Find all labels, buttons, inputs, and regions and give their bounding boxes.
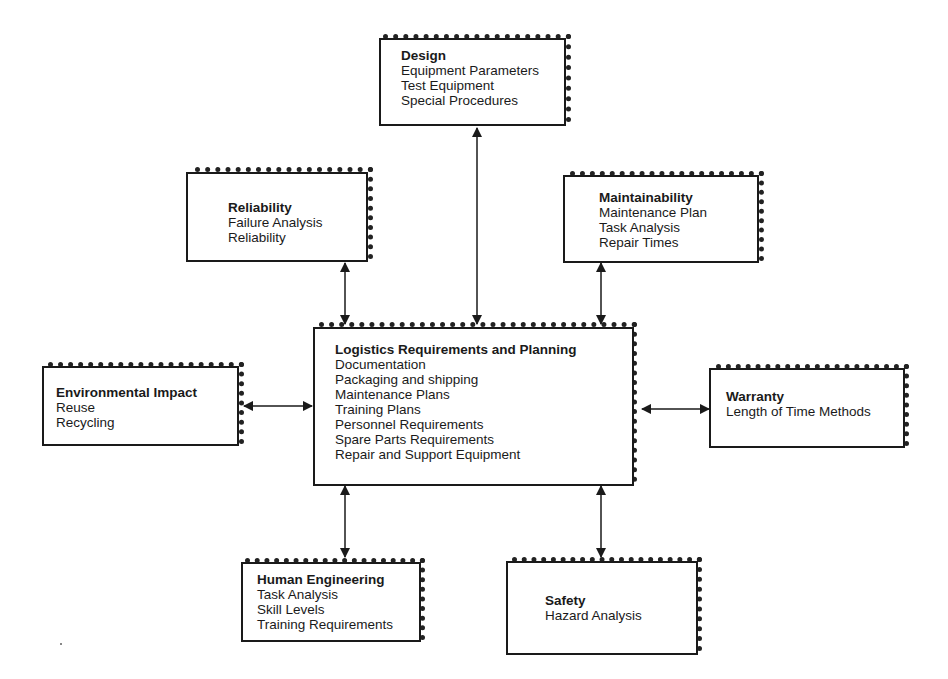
- human-item: Training Requirements: [257, 617, 393, 632]
- reliability-item: Reliability: [228, 230, 323, 245]
- environmental-item: Reuse: [56, 400, 197, 415]
- logistics-item: Documentation: [335, 357, 577, 372]
- reliability-title: Reliability: [228, 200, 323, 215]
- logistics-box: Logistics Requirements and Planning Docu…: [313, 327, 634, 486]
- environmental-title: Environmental Impact: [56, 385, 197, 400]
- logistics-item: Repair and Support Equipment: [335, 447, 577, 462]
- maintainability-title: Maintainability: [599, 190, 707, 205]
- stray-dot: [60, 643, 62, 645]
- design-item: Equipment Parameters: [401, 63, 539, 78]
- safety-box: Safety Hazard Analysis: [506, 561, 698, 655]
- human-box: Human Engineering Task Analysis Skill Le…: [241, 562, 421, 642]
- warranty-box: Warranty Length of Time Methods: [709, 368, 905, 448]
- logistics-title: Logistics Requirements and Planning: [335, 342, 577, 357]
- environmental-item: Recycling: [56, 415, 197, 430]
- logistics-item: Packaging and shipping: [335, 372, 577, 387]
- design-title: Design: [401, 48, 539, 63]
- safety-item: Hazard Analysis: [545, 608, 642, 623]
- logistics-item: Training Plans: [335, 402, 577, 417]
- reliability-item: Failure Analysis: [228, 215, 323, 230]
- design-item: Test Equipment: [401, 78, 539, 93]
- environmental-box: Environmental Impact Reuse Recycling: [42, 366, 239, 446]
- logistics-item: Spare Parts Requirements: [335, 432, 577, 447]
- human-item: Skill Levels: [257, 602, 393, 617]
- warranty-item: Length of Time Methods: [726, 404, 871, 419]
- maintainability-item: Task Analysis: [599, 220, 707, 235]
- human-title: Human Engineering: [257, 572, 393, 587]
- maintainability-item: Maintenance Plan: [599, 205, 707, 220]
- design-item: Special Procedures: [401, 93, 539, 108]
- logistics-item: Maintenance Plans: [335, 387, 577, 402]
- reliability-box: Reliability Failure Analysis Reliability: [186, 172, 368, 262]
- warranty-title: Warranty: [726, 389, 871, 404]
- safety-title: Safety: [545, 593, 642, 608]
- human-item: Task Analysis: [257, 587, 393, 602]
- maintainability-item: Repair Times: [599, 235, 707, 250]
- design-box: Design Equipment Parameters Test Equipme…: [379, 38, 566, 126]
- logistics-item: Personnel Requirements: [335, 417, 577, 432]
- maintainability-box: Maintainability Maintenance Plan Task An…: [563, 175, 759, 263]
